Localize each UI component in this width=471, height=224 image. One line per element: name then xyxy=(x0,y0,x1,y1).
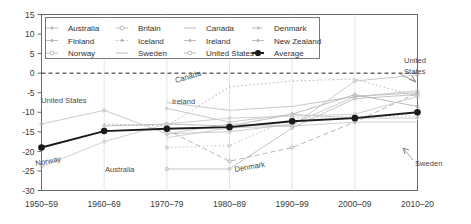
y-axis-tick-label: 10 xyxy=(25,29,35,39)
y-axis-tick-label: 0 xyxy=(30,68,35,78)
legend-label: Britain xyxy=(138,24,161,33)
chart-container: 151050-5-10-15-20-25-30 1950–591960–6919… xyxy=(0,0,471,224)
x-axis-tick-label: 1970–79 xyxy=(150,199,183,209)
y-axis-tick-label: -10 xyxy=(22,107,35,117)
legend-label: Norway xyxy=(68,49,95,58)
y-axis-tick-label: -30 xyxy=(22,186,35,196)
y-axis: 151050-5-10-15-20-25-30 xyxy=(22,10,41,196)
legend-label: Australia xyxy=(68,24,100,33)
annotation-ireland: Ireland xyxy=(172,97,195,106)
legend-label: Finland xyxy=(68,37,94,46)
chart-legend: AustraliaBritainCanadaDenmarkFinlandIcel… xyxy=(46,18,322,59)
x-axis-tick-label: 1950–59 xyxy=(25,199,58,209)
legend-label: Iceland xyxy=(138,37,164,46)
y-axis-tick-label: 15 xyxy=(25,10,35,20)
x-axis-tick-label: 2010–20 xyxy=(401,199,434,209)
y-axis-tick-label: -20 xyxy=(22,147,35,157)
x-axis-tick-label: 1990–99 xyxy=(276,199,309,209)
legend-label: New Zealand xyxy=(274,37,321,46)
annotation-australia: Australia xyxy=(105,165,135,174)
annotation-united-states-right-line2: States xyxy=(404,67,426,76)
line-chart-svg: 151050-5-10-15-20-25-30 1950–591960–6919… xyxy=(0,0,471,224)
y-axis-tick-label: 5 xyxy=(30,49,35,59)
y-axis-tick-label: -25 xyxy=(22,166,35,176)
legend-label: Sweden xyxy=(138,49,167,58)
legend-label: Denmark xyxy=(274,24,307,33)
x-axis-tick-label: 1960–69 xyxy=(88,199,121,209)
x-axis-tick-label: 1980–89 xyxy=(213,199,246,209)
annotation-sweden: Sweden xyxy=(415,159,442,168)
annotation-united-states-right-line1: United xyxy=(404,56,426,65)
y-axis-tick-label: -15 xyxy=(22,127,35,137)
legend-label: United States xyxy=(206,49,254,58)
x-axis: 1950–591960–691970–791980–891990–992000–… xyxy=(25,199,434,209)
legend-label: Ireland xyxy=(206,37,230,46)
legend-label: Average xyxy=(274,49,304,58)
y-axis-tick-label: -5 xyxy=(27,88,35,98)
legend-label: Canada xyxy=(206,24,235,33)
annotation-united-states-left: United States xyxy=(41,96,87,105)
x-axis-tick-label: 2000–09 xyxy=(338,199,371,209)
